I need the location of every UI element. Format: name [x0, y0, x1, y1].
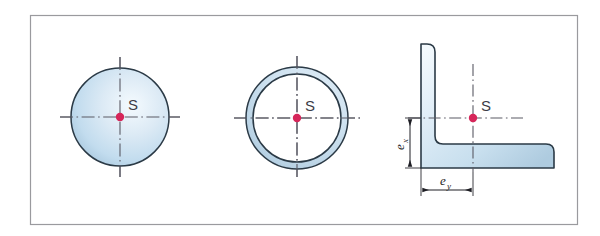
dimension-label-ex-base: e	[392, 144, 407, 150]
centroid-figures-diagram: S S S	[0, 0, 600, 236]
dimension-label-ex-subscript: x	[400, 139, 410, 144]
annulus-centroid-marker	[293, 114, 301, 122]
figure-plate: S S S	[0, 0, 600, 236]
solid-circle-centroid-label: S	[128, 96, 138, 113]
l-angle-centroid-marker	[469, 114, 477, 122]
dimension-label-ey-subscript: y	[446, 181, 451, 191]
annulus-centroid-label: S	[305, 97, 315, 114]
dimension-label-ey-base: e	[440, 173, 446, 188]
l-angle-centroid-label: S	[481, 97, 491, 114]
solid-circle-centroid-marker	[116, 113, 124, 121]
